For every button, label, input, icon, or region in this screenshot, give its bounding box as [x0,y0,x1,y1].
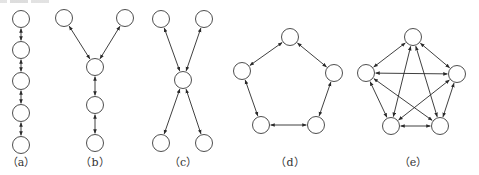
node-circle [87,97,104,114]
panel-label: （b） [80,156,109,169]
node-circle [153,135,170,152]
panel-a-chain: （a） [7,11,36,170]
panel-label: （e） [399,156,428,169]
bidirectional-arrow [443,83,454,117]
panel-label: （a） [7,156,36,169]
bidirectional-arrow [186,28,201,71]
node-circle [449,66,466,83]
node-circle [282,29,299,46]
panel-b-tree: （b） [56,10,134,170]
node-circle [308,117,325,134]
bidirectional-arrow [100,26,120,58]
node-circle [383,118,400,135]
node-circle [13,11,30,28]
bidirectional-arrow [376,73,448,74]
node-circle [234,63,251,80]
node-circle [13,105,30,122]
node-circle [253,117,270,134]
node-circle [196,11,213,28]
node-circle [87,59,104,76]
bidirectional-arrow [393,46,410,116]
node-circle [153,11,170,28]
bidirectional-arrow [250,43,282,66]
bidirectional-arrow [245,80,258,116]
node-circle [326,65,343,82]
panel-e-fully-connected: （e） [358,29,466,170]
bidirectional-arrow [416,46,437,116]
bidirectional-arrow [164,89,180,134]
bidirectional-arrow [374,43,406,67]
panel-c-star: （c） [153,11,213,170]
bidirectional-arrow [298,43,327,67]
network-topology-figure: （a） （b） （c） （d） （e） [0,0,479,175]
node-circle [87,135,104,152]
bidirectional-arrow [164,28,179,71]
node-circle [117,10,134,27]
panel-label: （d） [275,156,304,169]
panel-label: （c） [169,156,197,169]
node-circle [358,65,375,82]
node-circle [196,135,213,152]
node-circle [175,72,192,89]
panel-d-ring: （d） [234,29,343,170]
node-circle [405,29,422,46]
bidirectional-arrow [370,82,387,117]
node-circle [13,42,30,59]
bidirectional-arrow [69,26,90,59]
bidirectional-arrow [420,43,449,68]
bidirectional-arrow [319,82,331,116]
node-circle [432,118,449,135]
node-circle [13,73,30,90]
bidirectional-arrow [186,89,201,134]
node-circle [13,137,30,154]
node-circle [56,10,73,27]
bidirectional-arrow [374,79,432,121]
